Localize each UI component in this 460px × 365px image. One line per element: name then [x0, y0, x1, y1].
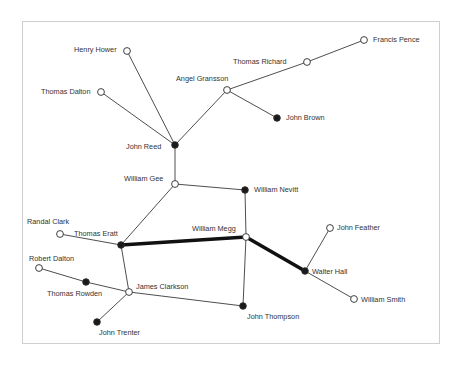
- edge-william_gee-thomas_eratt: [121, 184, 175, 245]
- edge-thomas_richard-francis_pence: [307, 40, 364, 62]
- node-thomas_eratt[interactable]: [118, 242, 125, 249]
- node-label-john_brown: John Brown: [286, 114, 325, 121]
- edge-william_megg-walter_hall: [246, 237, 305, 271]
- node-william_nevitt[interactable]: [242, 187, 249, 194]
- node-label-francis_pence: Francis Pence: [373, 36, 420, 43]
- node-angel_gransson[interactable]: [224, 87, 231, 94]
- node-john_feather[interactable]: [327, 225, 334, 232]
- node-william_megg[interactable]: [243, 234, 250, 241]
- node-label-john_feather: John Feather: [337, 224, 380, 231]
- node-william_gee[interactable]: [172, 181, 179, 188]
- node-label-thomas_richard: Thomas Richard: [233, 58, 287, 65]
- edge-walter_hall-john_feather: [305, 228, 330, 271]
- edge-robert_dalton-thomas_rowden: [39, 268, 86, 282]
- node-thomas_richard[interactable]: [304, 59, 311, 66]
- edge-william_gee-william_nevitt: [175, 184, 245, 190]
- edge-william_megg-john_thompson: [243, 237, 246, 306]
- node-francis_pence[interactable]: [361, 37, 368, 44]
- node-label-henry_hower: Henry Hower: [74, 46, 117, 53]
- node-label-thomas_dalton: Thomas Dalton: [41, 88, 90, 95]
- edge-henry_hower-john_reed: [127, 51, 175, 145]
- node-label-john_trenter: John Trenter: [99, 329, 140, 336]
- node-randal_clark[interactable]: [57, 231, 64, 238]
- node-thomas_dalton[interactable]: [98, 89, 105, 96]
- node-label-james_clarkson: James Clarkson: [136, 283, 188, 290]
- node-label-thomas_eratt: Thomas Eratt: [74, 230, 118, 237]
- edge-angel_gransson-thomas_richard: [227, 62, 307, 90]
- node-walter_hall[interactable]: [302, 268, 309, 275]
- node-john_brown[interactable]: [274, 115, 281, 122]
- edge-james_clarkson-john_thompson: [129, 292, 243, 306]
- node-label-john_thompson: John Thompson: [247, 313, 299, 320]
- edge-thomas_eratt-william_megg: [121, 237, 246, 245]
- edge-angel_gransson-john_brown: [227, 90, 277, 118]
- node-label-william_nevitt: William Nevitt: [254, 186, 298, 193]
- edge-william_nevitt-william_megg: [245, 190, 246, 237]
- edge-thomas_dalton-john_reed: [101, 92, 175, 145]
- node-james_clarkson[interactable]: [126, 289, 133, 296]
- node-william_smith[interactable]: [351, 296, 358, 303]
- network-graph: [0, 0, 460, 365]
- edge-thomas_eratt-james_clarkson: [121, 245, 129, 292]
- node-label-john_reed: John Reed: [126, 143, 161, 150]
- node-label-william_gee: William Gee: [124, 175, 163, 182]
- node-label-randal_clark: Randal Clark: [27, 218, 69, 225]
- node-label-angel_gransson: Angel Gransson: [176, 75, 228, 82]
- node-label-robert_dalton: Robert Dalton: [29, 255, 74, 262]
- node-label-walter_hall: Walter Hall: [312, 268, 347, 275]
- node-label-thomas_rowden: Thomas Rowden: [47, 290, 102, 297]
- node-henry_hower[interactable]: [124, 48, 131, 55]
- node-john_thompson[interactable]: [240, 303, 247, 310]
- node-john_trenter[interactable]: [94, 319, 101, 326]
- node-robert_dalton[interactable]: [36, 265, 43, 272]
- node-label-william_megg: William Megg: [192, 225, 236, 232]
- node-john_reed[interactable]: [172, 142, 179, 149]
- edge-angel_gransson-john_reed: [175, 90, 227, 145]
- node-label-william_smith: William Smith: [361, 296, 405, 303]
- node-thomas_rowden[interactable]: [83, 279, 90, 286]
